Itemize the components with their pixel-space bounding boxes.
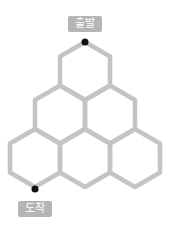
end-dot: [32, 186, 39, 193]
hexagon-grid: [0, 0, 173, 233]
hexagon-r3-c3: [110, 129, 160, 187]
hexagon-r3-c1: [10, 129, 60, 187]
hexagon-r3-c2: [60, 129, 110, 187]
end-label: 도착: [18, 201, 52, 217]
start-dot: [82, 39, 89, 46]
start-label: 출발: [68, 16, 102, 32]
